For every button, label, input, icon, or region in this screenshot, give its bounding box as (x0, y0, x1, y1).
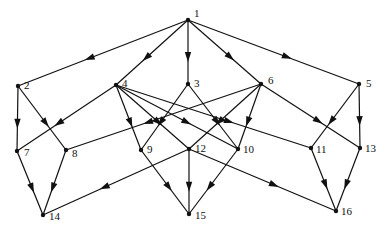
edge-1-to-6 (188, 20, 261, 84)
arrowhead-icon (143, 118, 153, 124)
graph-edges (14, 20, 362, 215)
edge-1-to-4 (116, 20, 188, 85)
edge-6-to-13 (261, 84, 360, 148)
node-dot-icon (16, 84, 20, 88)
edge-5-to-11 (311, 84, 359, 148)
node-label: 12 (195, 142, 206, 154)
edge-2-to-7 (14, 86, 20, 151)
edge-5-to-13 (356, 84, 362, 148)
node-15: 15 (187, 209, 207, 221)
arrowhead-icon (40, 117, 49, 127)
arrowhead-icon (85, 53, 95, 60)
node-label: 8 (72, 147, 78, 159)
directed-graph-diagram: 12345678910111213141516 (0, 0, 386, 231)
arrowhead-icon (207, 181, 216, 191)
node-label: 5 (366, 77, 372, 89)
node-dot-icon (186, 82, 190, 86)
arrowhead-icon (312, 116, 322, 124)
node-dot-icon (186, 18, 190, 22)
arrowhead-icon (268, 180, 278, 187)
node-16: 16 (334, 205, 353, 217)
arrowhead-icon (281, 52, 291, 59)
node-label: 1 (194, 7, 200, 19)
arrowhead-icon (181, 117, 191, 124)
node-dot-icon (139, 148, 143, 152)
edge-1-to-5 (188, 20, 359, 84)
node-label: 15 (195, 209, 207, 221)
arrowhead-icon (186, 182, 192, 192)
node-label: 9 (147, 143, 153, 155)
arrowhead-icon (163, 181, 172, 191)
node-12: 12 (187, 142, 206, 154)
node-label: 13 (365, 142, 377, 154)
node-label: 10 (243, 143, 255, 155)
arrowhead-icon (14, 119, 20, 129)
node-10: 10 (236, 143, 255, 155)
edge-1-to-2 (18, 20, 188, 86)
arrowhead-icon (356, 116, 362, 126)
arrowhead-icon (246, 116, 252, 126)
edge-12-to-15 (186, 149, 192, 214)
node-dot-icon (358, 146, 362, 150)
node-label: 4 (122, 77, 128, 89)
edge-2-to-8 (18, 86, 66, 150)
node-dot-icon (15, 149, 19, 153)
node-dot-icon (259, 82, 263, 86)
arrowhead-icon (223, 117, 233, 123)
edge-1-to-3 (185, 20, 191, 84)
arrowhead-icon (185, 52, 191, 62)
node-1: 1 (186, 7, 200, 22)
node-dot-icon (334, 209, 338, 213)
node-dot-icon (187, 147, 191, 151)
node-dot-icon (357, 82, 361, 86)
edge-12-to-16 (189, 149, 336, 211)
node-label: 16 (341, 205, 353, 217)
node-label: 2 (24, 79, 30, 91)
node-label: 14 (49, 210, 61, 222)
node-dot-icon (64, 148, 68, 152)
edge-13-to-16 (336, 148, 360, 211)
edge-8-to-14 (43, 150, 66, 215)
node-label: 3 (194, 77, 200, 89)
node-9: 9 (139, 143, 153, 155)
arrowhead-icon (100, 182, 110, 189)
arrowhead-icon (321, 179, 328, 189)
node-dot-icon (236, 147, 240, 151)
node-11: 11 (309, 143, 327, 155)
arrowhead-icon (328, 115, 337, 125)
edge-4-to-9 (116, 85, 141, 150)
node-dot-icon (187, 212, 191, 216)
arrowhead-icon (51, 182, 57, 192)
node-6: 6 (259, 74, 274, 86)
arrowhead-icon (27, 182, 34, 192)
edge-4-to-7 (17, 85, 116, 151)
graph-nodes: 12345678910111213141516 (15, 7, 377, 222)
edge-12-to-14 (43, 149, 189, 215)
node-label: 7 (24, 146, 30, 158)
node-dot-icon (41, 213, 45, 217)
arrowhead-icon (54, 118, 64, 126)
arrowhead-icon (344, 179, 351, 189)
node-label: 11 (316, 143, 327, 155)
edge-6-to-12 (189, 84, 261, 149)
arrowhead-icon (126, 117, 133, 127)
node-dot-icon (309, 146, 313, 150)
node-dot-icon (114, 83, 118, 87)
edge-7-to-14 (17, 151, 43, 215)
edge-4-to-10 (116, 85, 238, 149)
node-label: 6 (268, 74, 274, 86)
node-13: 13 (358, 142, 377, 154)
